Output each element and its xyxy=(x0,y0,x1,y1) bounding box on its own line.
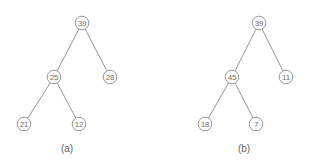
tree-node: 7 xyxy=(249,117,263,131)
binary-tree-figure: 3925282112(a)394511187(b) xyxy=(0,0,309,165)
tree-edges xyxy=(28,29,107,118)
node-value-label: 28 xyxy=(106,73,115,82)
node-value-label: 39 xyxy=(78,19,87,28)
tree-node: 39 xyxy=(252,16,266,30)
tree-edge xyxy=(85,29,107,71)
tree-edge xyxy=(262,29,283,71)
panel-caption-a: (a) xyxy=(61,143,73,154)
tree-edge xyxy=(235,83,253,118)
tree-nodes: 394511187 xyxy=(198,16,293,131)
tree-node: 21 xyxy=(17,117,31,131)
tree-panel-b: 394511187(b) xyxy=(198,16,293,153)
tree-edge xyxy=(208,83,228,118)
node-value-label: 45 xyxy=(228,73,237,82)
tree-edge xyxy=(235,29,256,71)
node-value-label: 11 xyxy=(282,73,291,82)
tree-edges xyxy=(208,29,283,118)
node-value-label: 12 xyxy=(75,120,84,129)
tree-edge xyxy=(57,83,76,118)
tree-node: 45 xyxy=(225,70,239,84)
tree-node: 25 xyxy=(47,70,61,84)
tree-node: 11 xyxy=(279,70,293,84)
tree-node: 18 xyxy=(198,117,212,131)
tree-edge xyxy=(28,83,51,119)
node-value-label: 21 xyxy=(20,120,29,129)
tree-nodes: 3925282112 xyxy=(17,16,117,131)
node-value-label: 18 xyxy=(201,120,210,129)
tree-node: 28 xyxy=(103,70,117,84)
tree-diagram-canvas: 3925282112(a)394511187(b) xyxy=(0,0,309,165)
tree-panel-a: 3925282112(a) xyxy=(17,16,117,153)
tree-node: 39 xyxy=(75,16,89,30)
tree-node: 12 xyxy=(72,117,86,131)
node-value-label: 39 xyxy=(255,19,264,28)
node-value-label: 25 xyxy=(50,73,59,82)
tree-edge xyxy=(57,29,79,71)
panel-caption-b: (b) xyxy=(238,143,250,154)
